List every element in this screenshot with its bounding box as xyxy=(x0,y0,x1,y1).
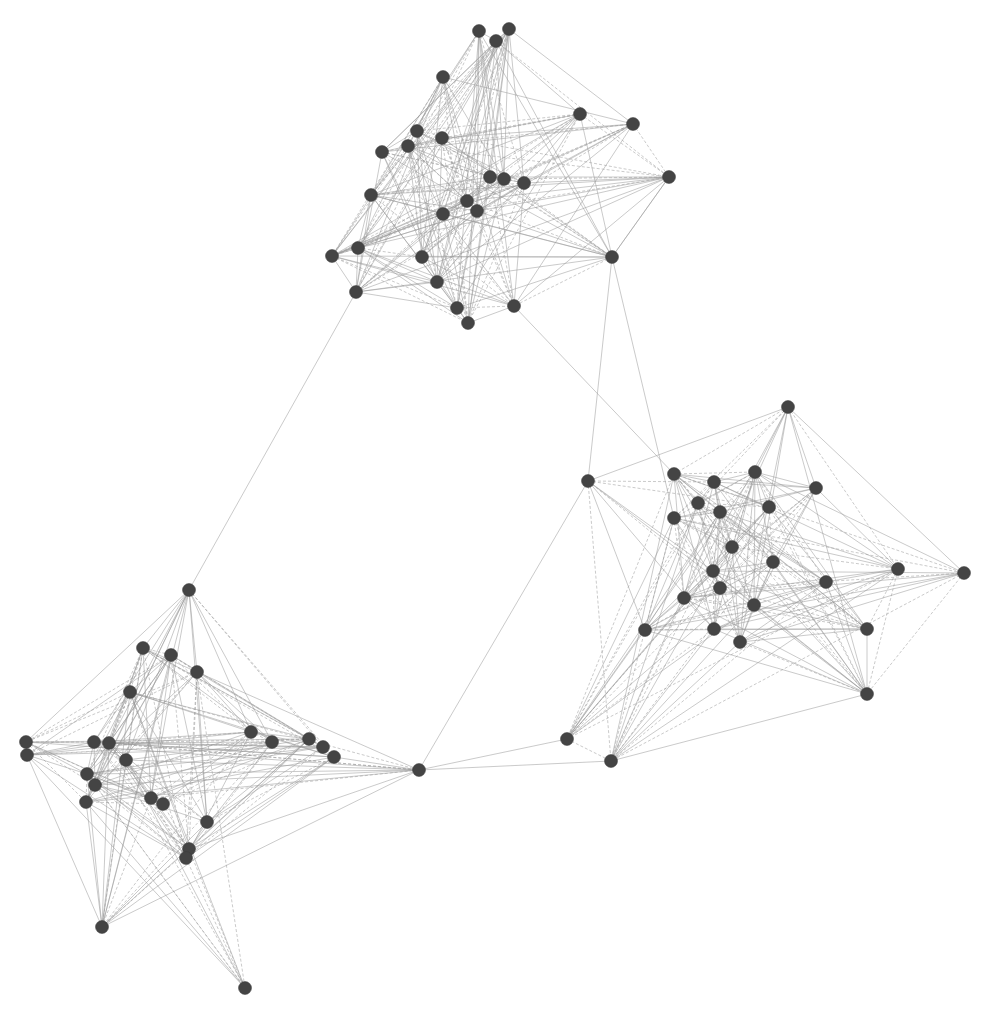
graph-node xyxy=(663,171,676,184)
graph-edge xyxy=(95,785,245,988)
graph-node xyxy=(416,251,429,264)
graph-edge xyxy=(713,571,964,573)
graph-edge xyxy=(189,292,356,590)
graph-node xyxy=(668,468,681,481)
graph-node xyxy=(376,146,389,159)
graph-edge xyxy=(186,739,309,858)
graph-node xyxy=(708,623,721,636)
graph-edge xyxy=(588,481,645,630)
graph-node xyxy=(490,35,503,48)
graph-edge xyxy=(95,672,197,785)
graph-edge xyxy=(151,590,189,798)
graph-edge xyxy=(356,177,669,292)
graph-edge xyxy=(189,590,272,742)
graph-node xyxy=(436,132,449,145)
graph-node xyxy=(81,768,94,781)
graph-edge xyxy=(788,407,898,569)
graph-node xyxy=(413,764,426,777)
graph-edge xyxy=(740,629,867,642)
graph-edge xyxy=(207,739,309,822)
graph-node xyxy=(328,751,341,764)
graph-edge xyxy=(109,743,245,988)
graph-edge xyxy=(87,648,143,774)
graph-edge xyxy=(382,152,457,308)
graph-node xyxy=(437,71,450,84)
graph-edge xyxy=(514,306,674,474)
graph-node xyxy=(96,921,109,934)
graph-edge xyxy=(468,114,580,323)
graph-edge xyxy=(457,257,612,308)
graph-node xyxy=(734,636,747,649)
graph-edge xyxy=(443,77,477,211)
graph-edge xyxy=(186,747,323,858)
graph-edge xyxy=(684,582,826,598)
graph-node xyxy=(462,317,475,330)
graph-edge xyxy=(356,292,457,308)
graph-node xyxy=(431,276,444,289)
graph-edge xyxy=(754,605,867,694)
graph-edge xyxy=(419,739,567,770)
graph-node xyxy=(561,733,574,746)
graph-node xyxy=(145,792,158,805)
graph-edge xyxy=(788,407,816,488)
graph-edge xyxy=(356,29,509,292)
graph-node xyxy=(606,251,619,264)
graph-node xyxy=(471,205,484,218)
graph-node xyxy=(165,649,178,662)
graph-edge xyxy=(189,757,334,849)
graph-edge xyxy=(26,692,130,742)
graph-edge xyxy=(514,177,669,306)
graph-edge xyxy=(816,488,898,569)
graph-edge xyxy=(567,739,611,761)
graph-edge xyxy=(714,482,898,569)
graph-edge xyxy=(674,472,755,474)
graph-edge xyxy=(645,630,867,694)
graph-node xyxy=(678,592,691,605)
graph-node xyxy=(767,556,780,569)
graph-edge xyxy=(754,472,755,605)
graph-edge xyxy=(186,672,197,858)
graph-edge xyxy=(197,672,272,742)
graph-node xyxy=(245,726,258,739)
graph-edge xyxy=(26,742,87,774)
graph-edge xyxy=(419,481,588,770)
graph-node xyxy=(782,401,795,414)
graph-edge xyxy=(514,257,612,306)
graph-node xyxy=(21,749,34,762)
graph-node xyxy=(157,798,170,811)
graph-node xyxy=(317,741,330,754)
graph-node xyxy=(239,982,252,995)
graph-edge xyxy=(567,630,645,739)
graph-edge xyxy=(588,257,612,481)
graph-node xyxy=(451,302,464,315)
graph-edge xyxy=(611,642,740,761)
graph-node xyxy=(326,250,339,263)
graph-node xyxy=(402,140,415,153)
graph-edge xyxy=(189,770,419,849)
graph-node xyxy=(183,584,196,597)
graph-node xyxy=(861,688,874,701)
graph-node xyxy=(303,733,316,746)
graph-edge xyxy=(588,481,611,761)
graph-node xyxy=(518,177,531,190)
graph-node xyxy=(763,501,776,514)
graph-node xyxy=(810,482,823,495)
graph-edge xyxy=(130,655,171,692)
graph-node xyxy=(639,624,652,637)
graph-edge xyxy=(443,77,633,124)
graph-node xyxy=(692,497,705,510)
graph-edge xyxy=(509,29,633,124)
graph-edge xyxy=(189,672,197,849)
graph-node xyxy=(191,666,204,679)
graph-edge xyxy=(186,858,245,988)
graph-edge xyxy=(567,518,674,739)
graph-edge xyxy=(419,761,611,770)
graph-edge xyxy=(611,503,698,761)
graph-node xyxy=(266,736,279,749)
graph-node xyxy=(726,541,739,554)
graph-node xyxy=(473,25,486,38)
graph-edge xyxy=(356,282,437,292)
graph-node xyxy=(201,816,214,829)
graph-edge xyxy=(496,41,580,114)
graph-node xyxy=(365,189,378,202)
